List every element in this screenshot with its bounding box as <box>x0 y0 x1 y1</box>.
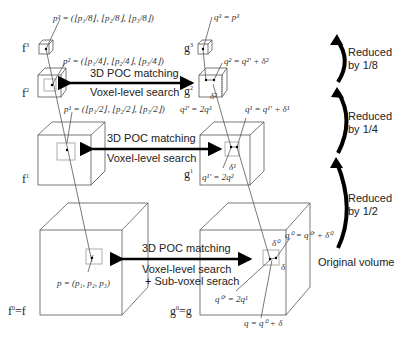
subvoxel-label-0: + Sub-voxel serach <box>145 275 239 287</box>
cube-f3 <box>39 40 53 54</box>
matching-label-0: 3D POC matching <box>142 242 231 254</box>
label-g0: g0=g <box>170 304 192 319</box>
pyramid-diagram: f3 f2 f1 f0=f g3 g2 g1 g0=g p³ = (⌊p₁/8⌋… <box>0 0 406 344</box>
eq-delta: δ <box>281 262 285 272</box>
label-f0: f0=f <box>8 304 26 319</box>
reduced-1-8-label: Reducedby 1/8 <box>348 46 392 72</box>
search-label-1: Voxel-level search <box>107 152 196 164</box>
cube-f2 <box>38 68 66 97</box>
label-g2: g2 <box>184 84 193 99</box>
reduce-arrow-1-4 <box>338 92 347 153</box>
eq-q1-initial: q¹' = 2q² <box>202 172 233 182</box>
label-f2: f2 <box>22 86 29 101</box>
matching-label-1: 3D POC matching <box>107 132 196 144</box>
eq-q2: q² = q²' + δ² <box>224 56 268 66</box>
eq-p2: p² = (⌊p₁/4⌋, ⌊p₂/4⌋, ⌊p₃/4⌋) <box>63 56 164 66</box>
reduce-arrow-1-2 <box>337 163 347 248</box>
matching-label-2: 3D POC matching <box>90 67 179 79</box>
label-g3: g3 <box>184 41 193 56</box>
label-f3: f3 <box>22 41 29 56</box>
eq-q-final: q = q⁰ + δ <box>244 318 282 328</box>
reduced-1-2-label: Reducedby 1/2 <box>348 192 392 218</box>
reduced-1-4-label: Reducedby 1/4 <box>348 110 392 136</box>
original-volume-label: Original volume <box>318 256 394 269</box>
eq-q2-initial: q²' = 2q³ <box>180 104 211 114</box>
eq-delta2: δ² <box>210 91 217 101</box>
eq-delta1: δ¹ <box>229 162 236 172</box>
eq-p3: p³ = (⌊p₁/8⌋, ⌊p₂/8⌋, ⌊p₃/8⌋) <box>53 13 154 23</box>
label-g1: g1 <box>184 167 193 182</box>
search-label-0: Voxel-level search <box>142 263 231 275</box>
reduce-arrow-1-8 <box>337 40 345 82</box>
eq-q1: q¹ = q¹' + δ¹ <box>245 104 289 114</box>
eq-q3: q³ = p³ <box>214 12 239 22</box>
search-label-2: Voxel-level search <box>90 86 179 98</box>
label-f1: f1 <box>22 172 29 187</box>
eq-p1: p¹ = (⌊p₁/2⌋, ⌊p₂/2⌋, ⌊p₃/2⌋) <box>64 104 165 114</box>
eq-delta0: δ⁰ <box>272 238 280 248</box>
eq-q0: q⁰ = q⁰' + δ⁰ <box>285 230 333 240</box>
cube-f1 <box>38 122 105 185</box>
eq-q0-initial: q⁰' = 2q¹ <box>215 294 248 304</box>
eq-p0: p = (p₁, p₂, p₃) <box>57 278 110 288</box>
